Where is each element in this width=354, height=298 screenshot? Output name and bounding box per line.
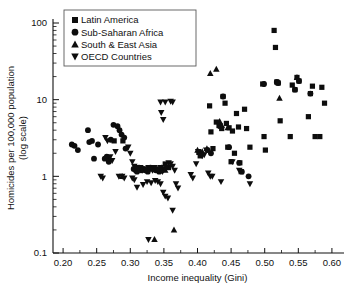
series-oecd-countries: [97, 99, 253, 243]
data-point: [222, 101, 227, 106]
x-tick-label: 0.20: [54, 257, 73, 268]
data-point: [232, 151, 237, 156]
data-point: [272, 28, 277, 33]
data-point: [112, 149, 119, 155]
legend-item-label: South & East Asia: [81, 39, 158, 50]
scatter-plot-figure: 1001010.10.200.250.300.350.400.450.500.5…: [0, 0, 354, 298]
x-tick-label: 0.35: [155, 257, 174, 268]
data-point: [275, 80, 281, 86]
data-point: [263, 147, 268, 152]
data-point: [89, 138, 95, 144]
data-point: [169, 208, 176, 214]
data-point: [140, 182, 147, 188]
x-tick-label: 0.25: [87, 257, 106, 268]
data-point: [261, 81, 267, 87]
data-point: [207, 70, 214, 76]
data-point: [213, 66, 220, 72]
x-tick-label: 0.60: [323, 257, 342, 268]
y-tick-label: 1: [42, 171, 47, 182]
x-tick-label: 0.45: [222, 257, 241, 268]
circle-marker-icon: [72, 29, 79, 36]
data-point: [236, 160, 242, 166]
data-point: [276, 95, 283, 101]
data-point: [134, 185, 141, 191]
data-point: [85, 127, 91, 133]
x-tick-label: 0.30: [121, 257, 140, 268]
data-point: [313, 134, 318, 139]
data-point: [292, 87, 298, 93]
data-point: [145, 237, 152, 243]
data-point: [273, 45, 278, 50]
data-point: [288, 134, 293, 139]
y-tick-label: 0.1: [34, 247, 47, 258]
series-sub-saharan-africa: [69, 78, 313, 179]
data-point: [151, 236, 158, 242]
legend-item-label: Latin America: [81, 14, 139, 25]
data-point: [319, 85, 324, 90]
plot-canvas: 1001010.10.200.250.300.350.400.450.500.5…: [0, 0, 354, 298]
data-point: [307, 91, 313, 97]
data-point: [75, 147, 81, 153]
data-point: [310, 84, 315, 89]
data-point: [162, 99, 169, 105]
data-point: [190, 175, 197, 181]
data-point: [306, 114, 311, 119]
data-point: [230, 128, 235, 133]
data-point: [95, 142, 101, 148]
data-point: [148, 180, 155, 186]
data-point: [278, 118, 283, 123]
data-point: [171, 168, 178, 174]
data-point: [247, 181, 254, 187]
x-tick-label: 0.40: [188, 257, 207, 268]
data-point: [193, 161, 200, 167]
data-point: [317, 134, 322, 139]
data-point: [220, 94, 226, 100]
x-tick-label: 0.55: [289, 257, 308, 268]
data-point: [175, 186, 182, 192]
data-point: [236, 124, 241, 129]
data-point: [91, 156, 97, 162]
data-point: [242, 107, 247, 112]
data-point: [208, 150, 214, 156]
data-point: [127, 151, 134, 157]
data-point: [322, 101, 327, 106]
square-marker-icon: [72, 17, 78, 23]
data-point: [121, 135, 127, 141]
data-point: [208, 129, 213, 134]
data-point: [290, 82, 295, 87]
legend-item-label: Sub-Saharan Africa: [81, 27, 164, 38]
data-point: [218, 179, 225, 185]
y-axis-title-line1: Homicides per 100,000 population: [5, 66, 16, 210]
y-axis-title-line2: (log scale): [17, 116, 28, 160]
chart-legend: Latin AmericaSub-Saharan AfricaSouth & E…: [64, 10, 196, 66]
data-point: [246, 173, 252, 179]
x-tick-label: 0.50: [255, 257, 274, 268]
y-tick-label: 100: [31, 17, 47, 28]
data-point: [171, 227, 178, 233]
data-point: [244, 126, 249, 131]
data-point: [158, 110, 165, 116]
data-point: [207, 103, 212, 108]
x-axis-title: Income inequality (Gini): [148, 272, 248, 283]
legend-item-label: OECD Countries: [81, 51, 152, 62]
data-point: [226, 144, 232, 150]
data-point: [247, 145, 252, 150]
data-point: [261, 134, 266, 139]
data-point: [160, 117, 167, 123]
y-tick-label: 10: [36, 94, 47, 105]
data-point: [234, 111, 239, 116]
